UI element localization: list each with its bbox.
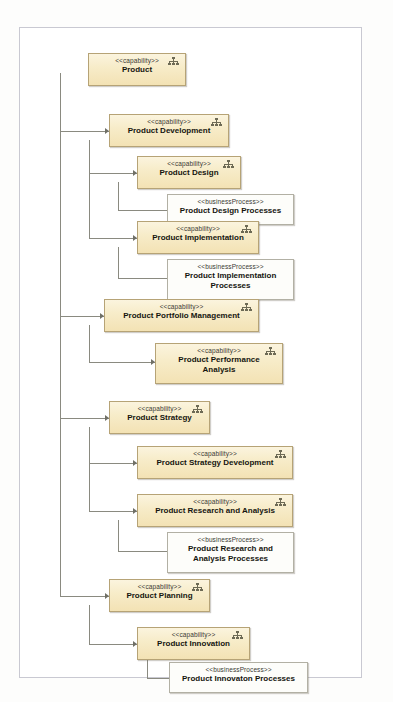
- connector-development-to-design: [89, 173, 137, 174]
- hierarchy-tree-icon: [211, 118, 222, 127]
- node-product-performance-analysis[interactable]: <<capability>> Product Performance Analy…: [155, 343, 283, 384]
- node-label: Product: [89, 65, 185, 77]
- hierarchy-tree-icon: [265, 347, 276, 356]
- node-label: Product Strategy Development: [138, 458, 292, 470]
- node-label: Product Strategy: [110, 413, 209, 425]
- node-product[interactable]: <<capability>> Product: [88, 53, 186, 86]
- connector-design-to-processes: [118, 210, 167, 211]
- diagram-canvas: <<capability>> Product <<capability>> Pr…: [20, 28, 361, 677]
- node-label: Product Development: [110, 126, 228, 138]
- node-label: Product Planning: [110, 591, 209, 603]
- node-label: Product Portfolio Management: [105, 311, 258, 323]
- connector-product-trunk: [60, 73, 61, 596]
- connector-development-trunk: [89, 140, 90, 238]
- hierarchy-tree-icon: [192, 405, 203, 414]
- node-label: Product Implementation: [138, 233, 258, 245]
- node-stereotype: <<capability>>: [138, 447, 292, 458]
- node-stereotype: <<capability>>: [138, 222, 258, 233]
- node-stereotype: <<capability>>: [138, 495, 292, 506]
- connector-product-to-strategy: [60, 418, 109, 419]
- node-stereotype: <<businessProcess>>: [168, 533, 293, 544]
- node-label-line1: Product Performance: [156, 355, 282, 365]
- connector-product-to-development: [60, 131, 109, 132]
- node-label-line2: Analysis Processes: [168, 554, 293, 566]
- node-stereotype: <<businessProcess>>: [168, 260, 293, 271]
- hierarchy-tree-icon: [275, 450, 286, 459]
- node-product-research-and-analysis-processes[interactable]: <<businessProcess>> Product Research and…: [167, 532, 294, 573]
- connector-product-to-portfolio: [60, 316, 104, 317]
- node-product-development[interactable]: <<capability>> Product Development: [109, 114, 229, 147]
- diagram-frame: <<capability>> Product <<capability>> Pr…: [19, 27, 362, 678]
- node-label-line2: Analysis: [156, 365, 282, 377]
- node-label-line1: Product Implementation: [168, 271, 293, 281]
- node-label-line1: Product Research and: [168, 544, 293, 554]
- connector-strategy-trunk: [89, 427, 90, 511]
- connector-implementation-trunk: [118, 247, 119, 278]
- node-product-innovation[interactable]: <<capability>> Product Innovation: [137, 627, 250, 660]
- node-label: Product Design Processes: [168, 206, 293, 218]
- node-product-planning[interactable]: <<capability>> Product Planning: [109, 579, 210, 612]
- node-stereotype: <<businessProcess>>: [170, 663, 307, 674]
- node-product-implementation[interactable]: <<capability>> Product Implementation: [137, 221, 259, 254]
- node-stereotype: <<businessProcess>>: [168, 195, 293, 206]
- connector-research-trunk: [118, 520, 119, 551]
- hierarchy-tree-icon: [241, 225, 252, 234]
- connector-development-to-implementation: [89, 238, 137, 239]
- connector-planning-to-innovation: [89, 644, 137, 645]
- node-product-implementation-processes[interactable]: <<businessProcess>> Product Implementati…: [167, 259, 294, 300]
- node-label: Product Design: [138, 168, 240, 180]
- node-stereotype: <<capability>>: [156, 344, 282, 355]
- node-label: Product Innovation: [138, 639, 249, 651]
- connector-strategy-to-research: [89, 511, 137, 512]
- node-label: Product Research and Analysis: [138, 506, 292, 518]
- node-product-strategy-development[interactable]: <<capability>> Product Strategy Developm…: [137, 446, 293, 479]
- connector-product-to-planning: [60, 596, 109, 597]
- connector-innovation-to-processes: [147, 678, 169, 679]
- hierarchy-tree-icon: [275, 498, 286, 507]
- diagram-page: <<capability>> Product <<capability>> Pr…: [0, 0, 393, 702]
- hierarchy-tree-icon: [223, 160, 234, 169]
- connector-portfolio-trunk: [89, 325, 90, 362]
- connector-portfolio-to-performance: [89, 362, 155, 363]
- hierarchy-tree-icon: [241, 303, 252, 312]
- node-product-design[interactable]: <<capability>> Product Design: [137, 156, 241, 189]
- node-product-portfolio-management[interactable]: <<capability>> Product Portfolio Managem…: [104, 299, 259, 332]
- node-product-strategy[interactable]: <<capability>> Product Strategy: [109, 401, 210, 434]
- connector-design-trunk: [118, 182, 119, 210]
- hierarchy-tree-icon: [232, 631, 243, 640]
- connector-research-to-processes: [118, 551, 167, 552]
- hierarchy-tree-icon: [192, 583, 203, 592]
- node-label-line2: Processes: [168, 281, 293, 293]
- node-product-innovation-processes[interactable]: <<businessProcess>> Product Innovaton Pr…: [169, 662, 308, 693]
- node-label: Product Innovaton Processes: [170, 674, 307, 686]
- connector-planning-trunk: [89, 605, 90, 644]
- node-stereotype: <<capability>>: [105, 300, 258, 311]
- hierarchy-tree-icon: [168, 57, 179, 66]
- connector-implementation-to-processes: [118, 278, 167, 279]
- node-product-research-and-analysis[interactable]: <<capability>> Product Research and Anal…: [137, 494, 293, 527]
- connector-strategy-to-strategy-development: [89, 463, 137, 464]
